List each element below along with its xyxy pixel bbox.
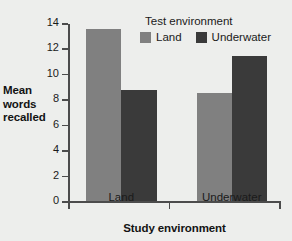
legend-entries: LandUnderwater xyxy=(140,31,288,44)
x-axis-title: Study environment xyxy=(68,222,281,234)
legend-label-land: Land xyxy=(156,31,182,44)
y-axis-tick: 10 xyxy=(62,74,68,76)
y-axis-tick: 4 xyxy=(62,150,68,152)
bar-chart-figure: Mean words recalled 02468101214 LandUnde… xyxy=(0,0,292,241)
y-axis-tick: 12 xyxy=(62,48,68,50)
legend-entry-underwater: Underwater xyxy=(196,31,271,44)
y-axis-tick-label: 2 xyxy=(53,169,59,182)
bar-underwater-underwater xyxy=(232,56,267,201)
legend: Test environment LandUnderwater xyxy=(140,14,288,44)
y-axis-tick: 6 xyxy=(62,125,68,127)
y-axis-tick: 2 xyxy=(62,176,68,178)
y-axis-tick-label: 8 xyxy=(53,92,59,105)
x-axis-category-label: Underwater xyxy=(177,190,288,204)
y-axis-tick-label: 4 xyxy=(53,143,59,156)
bar-underwater-land xyxy=(197,93,232,201)
y-axis-tick-label: 0 xyxy=(53,194,59,207)
y-axis-tick: 14 xyxy=(62,23,68,25)
bars-container xyxy=(70,22,281,201)
legend-swatch-underwater xyxy=(196,32,207,43)
x-axis-category-label: Land xyxy=(66,190,177,204)
y-axis-tick: 8 xyxy=(62,99,68,101)
plot-area: 02468101214 xyxy=(68,22,281,203)
y-axis-tick-label: 12 xyxy=(47,41,59,54)
legend-title: Test environment xyxy=(145,14,288,28)
legend-label-underwater: Underwater xyxy=(212,31,271,44)
bar-land-land xyxy=(86,29,121,201)
legend-entry-land: Land xyxy=(140,31,182,44)
y-axis-tick-label: 6 xyxy=(53,118,59,131)
y-axis-tick-label: 14 xyxy=(47,16,59,29)
bar-land-underwater xyxy=(121,90,156,201)
y-axis-tick-label: 10 xyxy=(47,67,59,80)
legend-swatch-land xyxy=(140,32,151,43)
